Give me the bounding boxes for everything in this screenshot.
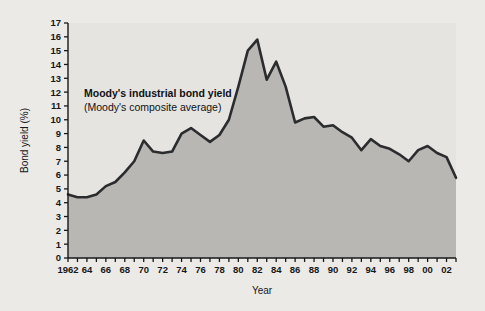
annotation-line-2: (Moody's composite average): [84, 101, 221, 113]
x-axis-tick-label: 76: [195, 264, 206, 275]
x-axis-tick-label: 66: [101, 264, 112, 275]
x-axis-tick-label: 78: [214, 264, 225, 275]
x-axis-tick-label: 84: [271, 264, 282, 275]
x-axis-tick-label: 86: [290, 264, 301, 275]
y-axis-tick-label: 13: [50, 73, 61, 84]
annotation-line-1: Moody's industrial bond yield: [84, 87, 232, 99]
x-axis-tick-label: 64: [82, 264, 93, 275]
x-axis-tick-label: 68: [119, 264, 130, 275]
y-axis-title: Bond yield (%): [19, 108, 30, 173]
y-axis-tick-label: 2: [56, 225, 61, 236]
y-axis-tick-label: 5: [56, 183, 62, 194]
y-axis-tick-label: 1: [56, 239, 62, 250]
x-axis-tick-label: 80: [233, 264, 244, 275]
y-axis-tick-label: 12: [50, 87, 61, 98]
y-axis-tick-label: 7: [56, 156, 61, 167]
x-axis-tick-label: 82: [252, 264, 263, 275]
y-axis-tick-label: 11: [51, 100, 62, 111]
x-axis-tick-label: 00: [422, 264, 433, 275]
bond-yield-chart: 0123456789101112131415161719626466687072…: [0, 0, 485, 311]
x-axis-tick-label: 02: [441, 264, 452, 275]
y-axis-tick-label: 0: [56, 252, 61, 263]
x-axis-tick-label: 98: [403, 264, 414, 275]
y-axis-tick-label: 3: [56, 211, 61, 222]
y-axis-tick-label: 10: [50, 114, 61, 125]
x-axis-tick-label: 88: [309, 264, 320, 275]
x-axis-tick-label: 92: [347, 264, 358, 275]
y-axis-tick-label: 9: [56, 128, 61, 139]
x-axis-tick-label: 96: [384, 264, 395, 275]
y-axis-tick-label: 8: [56, 142, 61, 153]
x-axis-tick-label: 74: [176, 264, 187, 275]
y-axis-tick-label: 17: [50, 17, 61, 28]
chart-figure: 0123456789101112131415161719626466687072…: [0, 0, 485, 311]
y-axis-tick-label: 16: [50, 31, 61, 42]
y-axis-tick-label: 15: [50, 45, 61, 56]
x-axis-tick-label: 70: [138, 264, 149, 275]
x-axis-tick-label: 94: [366, 264, 377, 275]
y-axis-tick-label: 6: [56, 169, 61, 180]
y-axis-tick-label: 4: [56, 197, 62, 208]
y-axis-tick-label: 14: [50, 59, 61, 70]
x-axis-title: Year: [252, 285, 273, 296]
x-axis-tick-label: 90: [328, 264, 339, 275]
x-axis-tick-label: 1962: [57, 264, 78, 275]
x-axis-tick-label: 72: [157, 264, 168, 275]
